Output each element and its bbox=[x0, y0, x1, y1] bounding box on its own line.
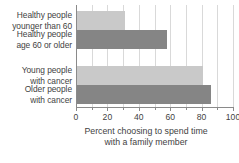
x-tick-major bbox=[76, 107, 77, 111]
category-label-line1: Older people bbox=[25, 84, 72, 94]
x-tick-major bbox=[170, 107, 171, 111]
x-tick-label: 20 bbox=[94, 112, 120, 122]
gridline bbox=[217, 5, 218, 107]
x-tick-label: 60 bbox=[157, 112, 183, 122]
x-tick-major bbox=[233, 107, 234, 111]
category-label-line2: with cancer bbox=[0, 95, 72, 105]
x-axis-title: Percent choosing to spend time with a fa… bbox=[56, 126, 236, 147]
category-label-young-cancer: Young people with cancer bbox=[0, 65, 72, 85]
x-tick-major bbox=[107, 107, 108, 111]
category-label-healthy-younger: Healthy people younger than 60 bbox=[0, 10, 72, 30]
x-tick-minor bbox=[155, 107, 156, 110]
x-axis-title-line2: with a family member bbox=[56, 137, 236, 148]
bar-3 bbox=[76, 85, 211, 104]
category-label-line2: age 60 or older bbox=[0, 40, 72, 50]
category-label-line1: Healthy people bbox=[17, 29, 72, 39]
x-axis-title-line1: Percent choosing to spend time bbox=[84, 126, 207, 136]
x-tick-major bbox=[202, 107, 203, 111]
x-tick-minor bbox=[186, 107, 187, 110]
x-tick-minor bbox=[92, 107, 93, 110]
category-label-line1: Healthy people bbox=[17, 10, 72, 20]
x-tick-label: 40 bbox=[126, 112, 152, 122]
gridline bbox=[233, 5, 234, 107]
y-axis-line bbox=[76, 5, 77, 107]
x-tick-label: 80 bbox=[189, 112, 215, 122]
category-label-line1: Young people bbox=[22, 65, 72, 75]
x-tick-major bbox=[139, 107, 140, 111]
plot-area bbox=[76, 5, 233, 107]
bar-chart: Healthy people younger than 60 Healthy p… bbox=[0, 0, 239, 163]
bar-2 bbox=[76, 66, 203, 85]
x-tick-label: 100 bbox=[220, 112, 239, 122]
bar-1 bbox=[76, 30, 167, 49]
category-label-older-cancer: Older people with cancer bbox=[0, 84, 72, 104]
bar-0 bbox=[76, 11, 125, 30]
category-axis-labels: Healthy people younger than 60 Healthy p… bbox=[0, 0, 74, 107]
x-tick-minor bbox=[123, 107, 124, 110]
x-tick-label: 0 bbox=[63, 112, 89, 122]
category-label-healthy-older: Healthy people age 60 or older bbox=[0, 29, 72, 49]
x-tick-minor bbox=[217, 107, 218, 110]
